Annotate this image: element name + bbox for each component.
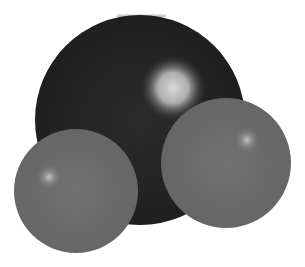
right-atom bbox=[161, 98, 291, 228]
right-atom-sphere bbox=[161, 98, 291, 228]
left-atom bbox=[14, 129, 138, 253]
right-atom-highlight bbox=[234, 127, 260, 153]
left-atom-sphere bbox=[14, 129, 138, 253]
left-atom-highlight bbox=[36, 164, 62, 190]
molecule-figure: Space-filling molecular model bbox=[0, 0, 305, 267]
molecule-model bbox=[0, 0, 305, 267]
